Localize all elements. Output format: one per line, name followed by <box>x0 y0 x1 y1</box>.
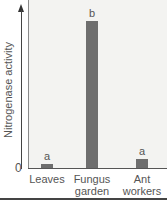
bottom-border <box>0 198 167 200</box>
x-axis <box>28 168 167 169</box>
y-tick-zero: 0 <box>15 161 22 175</box>
x-label-ant-workers: Ant workers <box>117 173 167 197</box>
x-label-line1: Leaves <box>22 173 72 185</box>
x-label-fungus-garden: Fungus garden <box>67 173 117 197</box>
y-axis-label: Nitrogenase activity <box>2 42 14 138</box>
significance-letter-leaves: a <box>37 150 57 162</box>
x-label-line1: Ant <box>117 173 167 185</box>
bar-fungus-garden <box>86 21 98 168</box>
significance-letter-ant-workers: a <box>132 145 152 157</box>
significance-letter-fungus-garden: b <box>82 7 102 19</box>
x-label-line1: Fungus <box>67 173 117 185</box>
bar-leaves <box>41 164 53 168</box>
x-label-leaves: Leaves <box>22 173 72 185</box>
bar-ant-workers <box>136 159 148 168</box>
x-label-line2: workers <box>117 185 167 197</box>
y-axis <box>21 10 22 169</box>
x-label-line2: garden <box>67 185 117 197</box>
